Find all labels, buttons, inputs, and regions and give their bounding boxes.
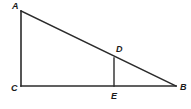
figure-canvas — [0, 0, 191, 109]
vertex-label-c: C — [11, 84, 18, 93]
vertex-label-b: B — [180, 83, 187, 92]
vertex-label-d: D — [116, 45, 123, 54]
vertex-label-e: E — [111, 92, 117, 101]
geometry-figure: A C B D E — [0, 0, 191, 109]
vertex-label-a: A — [12, 2, 19, 11]
segment-ab-hypotenuse — [21, 11, 176, 86]
